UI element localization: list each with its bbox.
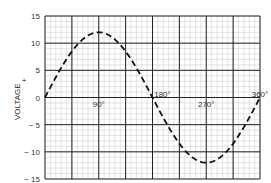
y-axis-plus-sign: + bbox=[22, 76, 27, 85]
x-angle-label: 90° bbox=[93, 100, 105, 109]
x-angle-label: 180° bbox=[154, 90, 171, 99]
x-angle-labels: 90°180°270°360° bbox=[93, 90, 269, 109]
y-tick-label: − 5 bbox=[29, 121, 41, 130]
y-tick-label: − 10 bbox=[24, 148, 40, 157]
voltage-sine-chart: 151050− 5− 10− 15 90°180°270°360° VOLTAG… bbox=[0, 0, 271, 183]
x-angle-label: 360° bbox=[252, 90, 269, 99]
y-axis-ticks: 151050− 5− 10− 15 bbox=[24, 12, 40, 183]
y-tick-label: 5 bbox=[36, 66, 41, 75]
y-tick-label: 15 bbox=[31, 12, 40, 21]
y-tick-label: 10 bbox=[31, 39, 40, 48]
y-tick-label: 0 bbox=[36, 94, 41, 103]
x-angle-label: 270° bbox=[198, 100, 215, 109]
y-tick-label: − 15 bbox=[24, 175, 40, 183]
y-axis-label: VOLTAGE bbox=[13, 83, 22, 120]
